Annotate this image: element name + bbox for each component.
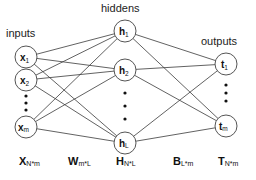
neural-network-diagram: inputs hiddens outputs x1 x2 xm h1 h2 hL xyxy=(0,0,256,180)
matrix-label-T: TN*m xyxy=(218,155,239,167)
hidden-node-hL: hL xyxy=(114,132,136,154)
hidden-node-h2: h2 xyxy=(114,59,136,81)
inputs-label: inputs xyxy=(6,27,36,39)
input-node-x1: x1 xyxy=(15,46,37,68)
edges-input-hidden xyxy=(26,31,125,143)
output-node-tm: tm xyxy=(215,115,237,137)
hidden-node-h1: h1 xyxy=(114,20,136,42)
hiddens-label: hiddens xyxy=(101,2,140,14)
matrix-label-B: BL*m xyxy=(173,155,194,167)
input-node-xm: xm xyxy=(15,116,37,138)
matrix-label-X: XN*m xyxy=(19,155,40,167)
output-ellipsis xyxy=(224,83,227,102)
edges-hidden-output xyxy=(125,31,226,143)
output-node-t1: t1 xyxy=(215,53,237,75)
hidden-ellipsis xyxy=(123,91,126,120)
input-node-x2: x2 xyxy=(15,69,37,91)
matrix-label-W: Wm*L xyxy=(68,155,91,167)
input-ellipsis xyxy=(24,94,27,111)
matrix-label-H: HN*L xyxy=(116,155,136,167)
outputs-label: outputs xyxy=(201,35,238,47)
